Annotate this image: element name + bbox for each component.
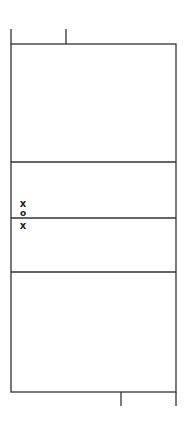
player-marker-x-bottom: x (20, 221, 26, 231)
court-diagram (0, 0, 187, 434)
player-marker-o: o (20, 209, 26, 218)
